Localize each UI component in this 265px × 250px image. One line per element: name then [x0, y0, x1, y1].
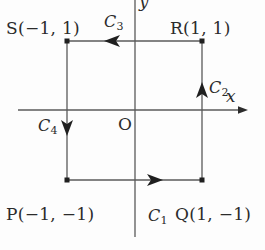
vertex-label-S: S(−1, 1): [6, 20, 80, 37]
curve-label-c4-base: C: [38, 116, 50, 135]
curve-label-c3: C3: [104, 14, 124, 32]
coordinate-diagram: S(−1, 1) R(1, 1) Q(1, −1) P(−1, −1) C1 C…: [0, 0, 265, 250]
curve-label-c1: C1: [148, 208, 168, 226]
y-axis-label: y: [139, 0, 149, 10]
origin-label: O: [118, 116, 132, 133]
vertex-dot-P: [65, 178, 70, 183]
curve-label-c4: C4: [38, 118, 58, 136]
vertex-label-Q: Q(1, −1): [175, 206, 251, 223]
vertex-dot-R: [200, 39, 205, 44]
curve-label-c2-base: C: [209, 78, 221, 97]
vertex-label-P: P(−1, −1): [6, 206, 94, 223]
x-axis-arrowhead: [238, 106, 248, 114]
curve-label-c1-base: C: [148, 206, 160, 225]
curve-label-c1-subscript: 1: [161, 214, 168, 227]
curve-label-c3-subscript: 3: [117, 20, 124, 33]
curve-label-c3-base: C: [104, 12, 116, 31]
vertex-dot-S: [65, 39, 70, 44]
curve-label-c4-subscript: 4: [51, 124, 58, 137]
vertex-label-R: R(1, 1): [170, 20, 231, 37]
vertex-dot-Q: [200, 178, 205, 183]
x-axis-label: x: [226, 88, 236, 105]
